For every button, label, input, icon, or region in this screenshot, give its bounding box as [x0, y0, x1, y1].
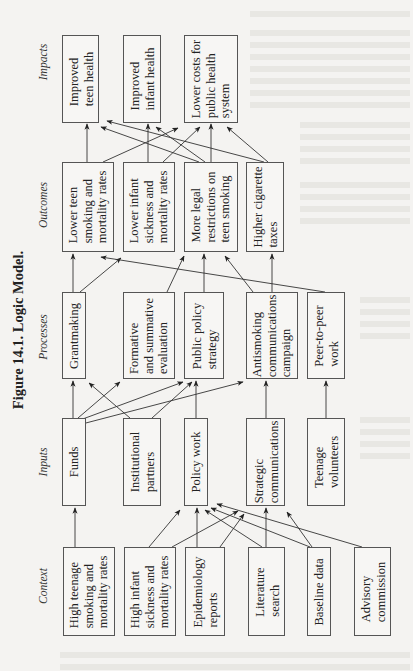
process-box-peer-to-peer: Peer-to-peer work — [307, 292, 345, 379]
box-label: Public policy strategy — [190, 302, 219, 368]
arrow — [103, 128, 178, 162]
arrow — [167, 256, 184, 292]
box-label: High infant sickness and mortality rates — [128, 555, 172, 628]
box-label: Higher cigarette taxes — [251, 167, 280, 248]
box-label: Advisory commission — [358, 561, 387, 621]
arrow — [217, 504, 362, 547]
input-box-teenage-volunteers: Teenage volunteers — [307, 418, 345, 506]
box-label: Improved teen health — [66, 52, 95, 107]
arrow — [82, 382, 243, 424]
box-label: Lower infant sickness and mortality rate… — [127, 171, 171, 244]
process-box-grantmaking: Grantmaking — [62, 292, 86, 379]
input-box-strategic-communications: Strategic communications — [246, 418, 285, 506]
box-label: Policy work — [189, 432, 204, 493]
box-label: Lower costs for public health system — [189, 40, 233, 118]
impact-box-improved-teen-health: Improved teen health — [62, 35, 99, 123]
box-label: Grantmaking — [67, 303, 82, 369]
box-label: Teenage volunteers — [312, 436, 341, 488]
box-label: Baseline data — [312, 558, 327, 625]
context-box-advisory-commission: Advisory commission — [354, 547, 391, 636]
box-label: Literature search — [252, 567, 281, 616]
arrow — [149, 510, 180, 547]
outcome-box-lower-teen-smoking: Lower teen smoking and mortality rates — [62, 162, 114, 252]
box-label: Institutional partners — [128, 432, 157, 492]
process-box-public-policy-strategy: Public policy strategy — [184, 292, 224, 379]
outcome-box-lower-infant-sickness: Lower infant sickness and mortality rate… — [123, 162, 175, 252]
arrow — [172, 511, 238, 547]
arrow — [287, 512, 312, 547]
arrow — [107, 121, 264, 162]
box-label: More legal restrictions on teen smoking — [189, 171, 233, 242]
input-box-institutional-partners: Institutional partners — [123, 418, 161, 506]
impact-box-lower-costs: Lower costs for public health system — [184, 35, 238, 123]
context-box-high-infant-sickness: High infant sickness and mortality rates — [124, 547, 176, 636]
input-box-policy-work: Policy work — [184, 418, 208, 506]
box-label: Improved infant health — [128, 48, 157, 111]
arrow — [227, 127, 268, 162]
box-label: High teenage smoking and mortality rates — [67, 555, 111, 628]
arrow — [80, 382, 183, 420]
box-label: Formative and summative evaluation — [127, 297, 171, 373]
arrow — [80, 258, 121, 292]
arrow — [205, 510, 262, 547]
context-box-baseline-data: Baseline data — [307, 547, 331, 636]
box-label: Epidemiology reports — [191, 556, 220, 627]
process-box-evaluation: Formative and summative evaluation — [123, 292, 175, 379]
process-box-antismoking-campaign: Antismoking communications campaign — [246, 292, 298, 379]
arrow — [152, 382, 192, 418]
arrow — [89, 383, 130, 418]
impact-box-improved-infant-health: Improved infant health — [123, 35, 161, 123]
context-box-literature-search: Literature search — [248, 547, 285, 636]
arrow — [101, 257, 325, 292]
box-label: Antismoking communications campaign — [250, 294, 294, 377]
box-label: Funds — [67, 447, 82, 478]
context-box-high-teenage-smoking: High teenage smoking and mortality rates — [63, 547, 115, 636]
arrow — [225, 256, 253, 292]
box-label: Peer-to-peer work — [312, 305, 341, 367]
outcome-box-more-legal-restrictions: More legal restrictions on teen smoking — [184, 162, 238, 252]
context-box-epidemiology-reports: Epidemiology reports — [185, 547, 225, 636]
outcome-box-higher-cigarette-taxes: Higher cigarette taxes — [246, 162, 284, 252]
box-label: Strategic communications — [251, 421, 280, 504]
box-label: Lower teen smoking and mortality rates — [66, 171, 110, 244]
input-box-funds: Funds — [62, 418, 86, 506]
